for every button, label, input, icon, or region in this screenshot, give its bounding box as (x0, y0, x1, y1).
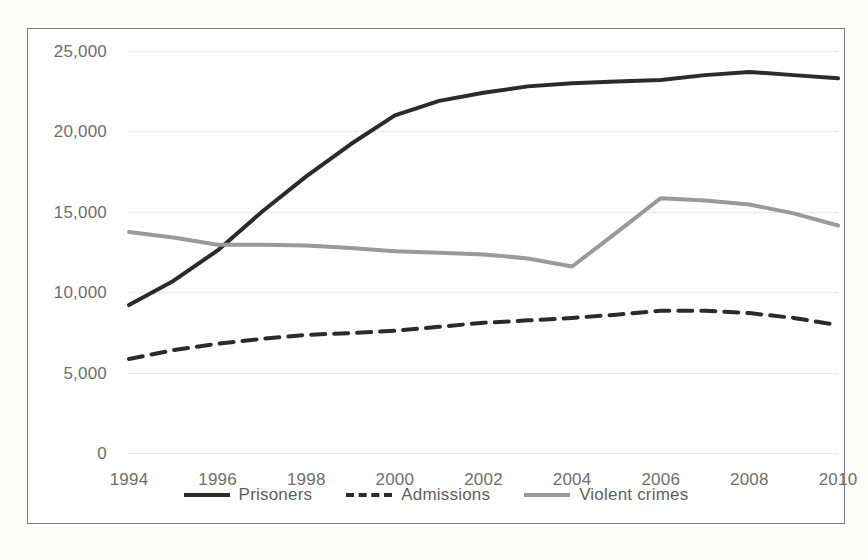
legend-item-violent-crimes[interactable]: Violent crimes (524, 485, 688, 505)
legend-label: Violent crimes (579, 485, 688, 505)
gridline (129, 453, 838, 454)
legend-swatch-icon (346, 493, 392, 497)
legend-label: Admissions (401, 485, 490, 505)
scan-artifact-text (30, 532, 530, 552)
legend-label: Prisoners (239, 485, 313, 505)
plot-area: 25,00020,00015,00010,0005,0000 199419961… (129, 51, 838, 453)
chart-legend: PrisonersAdmissionsViolent crimes (28, 485, 844, 505)
y-axis-tick-label: 5,000 (29, 364, 107, 381)
y-axis-tick-label: 25,000 (29, 43, 107, 60)
legend-item-admissions[interactable]: Admissions (346, 485, 490, 505)
chart-frame: 25,00020,00015,00010,0005,0000 199419961… (27, 28, 845, 524)
legend-item-prisoners[interactable]: Prisoners (184, 485, 313, 505)
y-axis-tick-label: 20,000 (29, 123, 107, 140)
y-axis-tick-label: 0 (29, 445, 107, 462)
series-line-admissions (129, 311, 838, 359)
legend-swatch-icon (184, 493, 230, 497)
series-layer (129, 51, 838, 453)
series-line-prisoners (129, 72, 838, 305)
legend-swatch-icon (524, 493, 570, 497)
y-axis-tick-label: 10,000 (29, 284, 107, 301)
series-line-violent-crimes (129, 198, 838, 266)
y-axis-tick-label: 15,000 (29, 203, 107, 220)
page-root: 25,00020,00015,00010,0005,0000 199419961… (0, 0, 868, 558)
